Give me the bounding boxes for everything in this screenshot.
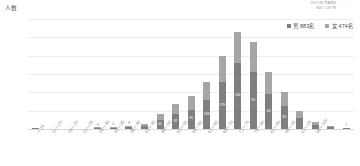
bar-slot xyxy=(323,19,339,129)
bar-stack[interactable]: 128 xyxy=(203,82,210,129)
x-label-slot: 86～90 xyxy=(277,130,293,164)
bar-slot: 91 xyxy=(183,19,199,129)
bar-slot xyxy=(292,19,308,129)
bar-segment-male[interactable] xyxy=(343,128,350,129)
bar-slot xyxy=(75,19,91,129)
bar-stack[interactable]: 95 xyxy=(250,42,257,129)
y-axis-title: 人数 xyxy=(5,4,17,12)
x-label-slot: 96～100 xyxy=(308,130,324,164)
bar-slot: 41 xyxy=(152,19,168,129)
x-label-slot: 31～35 xyxy=(106,130,122,164)
bar-slot xyxy=(59,19,75,129)
bar-slot xyxy=(28,19,44,129)
annotation-line-2: 合計：1357名 xyxy=(311,6,336,11)
bar-slot: 128 xyxy=(199,19,215,129)
plot-area: 050100150200250300 348416791128179156956… xyxy=(28,19,354,129)
x-label-slot: 71～75 xyxy=(230,130,246,164)
x-label-slot xyxy=(339,130,355,164)
bar-slot: 179 xyxy=(214,19,230,129)
bar-slot xyxy=(44,19,60,129)
bar-stack[interactable] xyxy=(327,126,334,129)
x-label-slot: 81～85 xyxy=(261,130,277,164)
bar-segment-female[interactable] xyxy=(250,42,257,72)
bar-slot: 67 xyxy=(168,19,184,129)
bar-segment-male[interactable]: 95 xyxy=(250,72,257,129)
bar-segment-female[interactable] xyxy=(265,72,272,94)
bar-stack[interactable]: 179 xyxy=(219,56,226,129)
bar-segment-female[interactable] xyxy=(203,82,210,100)
x-label-slot: ～10 xyxy=(28,130,44,164)
bar-value-label: 128 xyxy=(204,113,210,117)
bar-segment-female[interactable] xyxy=(281,92,288,106)
bar-slot: 30 xyxy=(277,19,293,129)
bar-value-label: 95 xyxy=(251,99,255,103)
bar-slot: 1 xyxy=(339,19,355,129)
bar-slot: 156 xyxy=(230,19,246,129)
bar-segment-female[interactable] xyxy=(234,32,241,64)
bar-slot xyxy=(137,19,153,129)
bar-total-label: 8 xyxy=(128,122,130,126)
bar-segment-female[interactable] xyxy=(219,56,226,82)
bar-value-label: 30 xyxy=(282,116,286,120)
bar-stack[interactable]: 62 xyxy=(265,72,272,129)
bar-segment-female[interactable] xyxy=(172,104,179,114)
bar-series: 3484167911281791569562301 xyxy=(28,19,354,129)
bar-value-label: 179 xyxy=(219,104,225,108)
bar-stack[interactable]: 1 xyxy=(343,128,350,129)
bar-segment-female[interactable] xyxy=(327,126,334,127)
x-label-slot: 91～95 xyxy=(292,130,308,164)
age-distribution-chart: 人数 2019年5月末時点 合計：1357名 男 883名 女 474名 050… xyxy=(0,0,360,166)
x-label-slot: 16～20 xyxy=(59,130,75,164)
x-label-slot xyxy=(323,130,339,164)
bar-segment-female[interactable] xyxy=(296,111,303,118)
x-label-slot: 56～60 xyxy=(183,130,199,164)
x-label-slot: 26～30 xyxy=(90,130,106,164)
bar-slot: 95 xyxy=(245,19,261,129)
x-label-slot: 21～25 xyxy=(75,130,91,164)
bar-value-label: 67 xyxy=(174,120,178,124)
bar-segment-male[interactable] xyxy=(327,127,334,129)
bar-slot: 8 xyxy=(121,19,137,129)
bar-segment-male[interactable]: 179 xyxy=(219,82,226,129)
bar-value-label: 156 xyxy=(235,94,241,98)
x-label-slot: 36～40 xyxy=(121,130,137,164)
bar-slot: 3 xyxy=(90,19,106,129)
bar-slot xyxy=(308,19,324,129)
bar-stack[interactable]: 156 xyxy=(234,32,241,129)
chart-annotation: 2019年5月末時点 合計：1357名 xyxy=(311,1,336,11)
bar-slot: 62 xyxy=(261,19,277,129)
bar-segment-male[interactable]: 156 xyxy=(234,63,241,129)
bar-value-label: 62 xyxy=(267,110,271,114)
bar-total-label: 1 xyxy=(345,124,347,128)
x-label-slot: 76～80 xyxy=(245,130,261,164)
x-label-slot: 61～65 xyxy=(199,130,215,164)
x-label-slot: 46～50 xyxy=(152,130,168,164)
bar-segment-male[interactable]: 62 xyxy=(265,94,272,129)
x-label-slot: 41～45 xyxy=(137,130,153,164)
x-label-slot: 51～55 xyxy=(168,130,184,164)
x-label-slot: 66～70 xyxy=(214,130,230,164)
bar-segment-female[interactable] xyxy=(157,114,164,120)
x-axis-labels: ～1011～1516～2021～2526～3031～3536～4041～4546… xyxy=(28,130,354,164)
x-label-slot: 11～15 xyxy=(44,130,60,164)
bar-value-label: 91 xyxy=(189,117,193,121)
bar-segment-female[interactable] xyxy=(188,96,195,110)
bar-slot: 4 xyxy=(106,19,122,129)
